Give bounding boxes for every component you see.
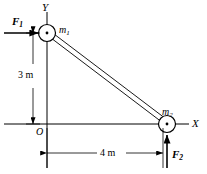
physics-diagram-figure: Y X O m1 m2 F1 F2 3 m 4 m — [0, 0, 207, 174]
mass-m2-label-subscript: 2 — [169, 111, 173, 119]
rod-line-upper — [51, 38, 171, 129]
force-f2-label: F2 — [172, 149, 183, 162]
mass-m1-center-dot — [46, 32, 49, 35]
force-f1-label: F1 — [12, 16, 23, 29]
origin-label: O — [36, 127, 43, 137]
force-f2-label-subscript: 2 — [179, 153, 183, 162]
rod-line-lower — [54, 34, 174, 125]
x-axis-label: X — [192, 118, 199, 129]
force-f1-label-subscript: 1 — [19, 20, 23, 29]
dimension-3m-label: 3 m — [18, 70, 33, 80]
y-axis-label: Y — [42, 2, 48, 13]
mass-m1-label-subscript: 1 — [66, 29, 70, 37]
mass-m2-label: m2 — [162, 107, 173, 119]
mass-m2-center-dot — [166, 123, 169, 126]
mass-m1-label: m1 — [59, 25, 70, 37]
dimension-4m-label: 4 m — [100, 148, 115, 158]
